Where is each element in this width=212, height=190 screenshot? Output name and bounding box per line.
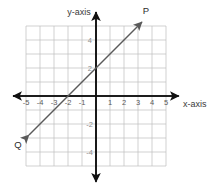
axis-lines [13, 12, 179, 182]
coordinate-plane-svg: -5 -4 -3 -2 -1 1 2 3 4 5 4 2 -2 -4 y-axi… [0, 0, 212, 190]
x-tick-label: -2 [65, 98, 72, 107]
y-tick-label: -2 [86, 120, 93, 129]
x-tick-label: 3 [136, 98, 140, 107]
y-tick-label: 2 [88, 64, 92, 73]
y-axis-title: y-axis [67, 7, 91, 17]
point-label-q: Q [14, 139, 21, 150]
x-tick-label: 1 [108, 98, 112, 107]
x-axis-title: x-axis [183, 99, 207, 109]
x-tick-label: -1 [79, 98, 86, 107]
x-tick-label: -3 [51, 98, 58, 107]
x-tick-label: -5 [23, 98, 30, 107]
coordinate-graph-figure: -5 -4 -3 -2 -1 1 2 3 4 5 4 2 -2 -4 y-axi… [0, 0, 212, 190]
y-tick-label: 4 [88, 36, 92, 45]
plotted-line-pq [29, 22, 142, 135]
x-tick-label: 2 [122, 98, 126, 107]
line-segment-pq [29, 22, 142, 135]
x-tick-label: 5 [164, 98, 168, 107]
point-label-p: P [143, 5, 149, 16]
x-tick-label: 4 [150, 98, 154, 107]
x-tick-label: -4 [37, 98, 44, 107]
y-tick-label: -4 [86, 148, 93, 157]
